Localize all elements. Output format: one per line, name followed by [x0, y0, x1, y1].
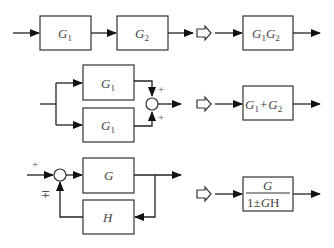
sign-feedback-minus-plus: ∓: [41, 188, 50, 200]
sign-plus-top: +: [158, 83, 164, 95]
sign-plus-bottom: +: [158, 111, 164, 123]
feedback-row: + ∓ G H G 1±GH: [27, 158, 320, 234]
upper-to-junction: [134, 81, 152, 96]
summing-junction: [54, 169, 66, 181]
block-g-label: G: [104, 168, 114, 183]
feedback-path-to-h: [135, 175, 155, 217]
fraction-numerator: G: [263, 178, 273, 193]
series-row: G1 G2 G1G2: [13, 16, 320, 50]
summing-junction: [146, 98, 158, 110]
equivalent-arrow-icon: [197, 187, 211, 201]
lower-to-junction: [134, 112, 152, 126]
equivalent-arrow-icon: [197, 97, 211, 111]
h-to-junction: [60, 182, 83, 217]
block-g1-plus-g2-label: G1+G2: [245, 97, 282, 114]
block-diagram: G1 G2 G1G2 G1 G1 + + G1+G2 +: [0, 0, 334, 248]
parallel-row: G1 G1 + + G1+G2: [40, 65, 320, 142]
block-h-label: H: [102, 210, 113, 225]
sign-input-plus: +: [32, 158, 38, 170]
fraction-denominator: 1±GH: [247, 195, 279, 210]
equivalent-arrow-icon: [197, 26, 211, 40]
